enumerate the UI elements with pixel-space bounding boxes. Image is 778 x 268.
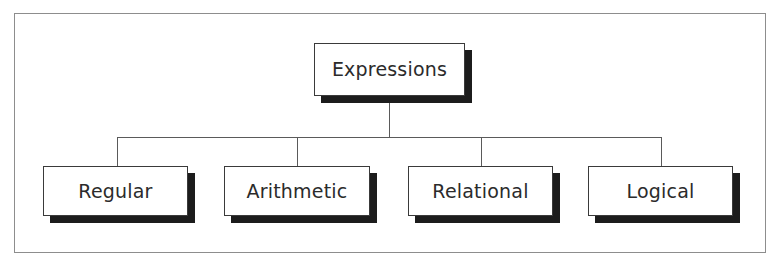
node-logical-label: Logical xyxy=(627,182,695,201)
node-relational-label: Relational xyxy=(432,182,528,201)
node-regular[interactable]: Regular xyxy=(43,166,188,216)
connector-drop-arithmetic xyxy=(297,137,299,167)
node-regular-label: Regular xyxy=(78,182,152,201)
connector-drop-regular xyxy=(117,137,119,167)
node-expressions-label: Expressions xyxy=(332,60,447,79)
diagram-canvas: Expressions Regular Arithmetic Relationa… xyxy=(0,0,778,268)
connector-drop-relational xyxy=(481,137,483,167)
node-relational[interactable]: Relational xyxy=(408,166,553,216)
node-arithmetic[interactable]: Arithmetic xyxy=(224,166,370,216)
node-expressions[interactable]: Expressions xyxy=(314,43,465,96)
connector-drop-logical xyxy=(661,137,663,167)
node-logical[interactable]: Logical xyxy=(588,166,733,216)
connector-horizontal-bar xyxy=(117,137,662,139)
node-arithmetic-label: Arithmetic xyxy=(247,182,348,201)
